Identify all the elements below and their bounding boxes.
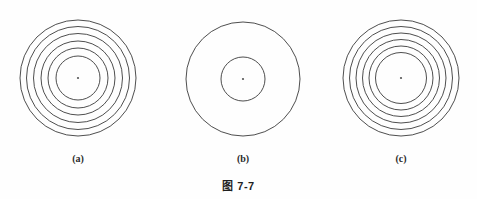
concentric-circles-diagram [0, 0, 477, 199]
panel-label-b: (b) [223, 153, 263, 164]
figure-container: (a) (b) (c) 图 7-7 [0, 0, 477, 199]
concentric-circles-a [20, 20, 136, 136]
figure-caption: 图 7-7 [0, 177, 477, 193]
center-point-dot [77, 77, 79, 79]
center-point-dot [242, 78, 244, 80]
concentric-circles-c [343, 20, 459, 136]
panel-label-c: (c) [381, 153, 421, 164]
concentric-circles-b [186, 22, 300, 136]
center-point-dot [400, 77, 402, 79]
panel-label-a: (a) [58, 153, 98, 164]
